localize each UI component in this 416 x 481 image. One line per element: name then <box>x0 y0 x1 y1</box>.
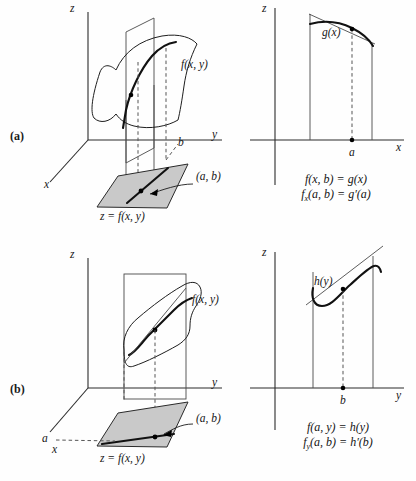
formula-b1-lhs: f(a, y) <box>307 420 336 434</box>
partial-derivative-figure: (a) <box>0 0 416 481</box>
panel-b-formula-line1: f(a, y) = h(y) <box>276 420 400 435</box>
formula-b2-rhs: h′(b) <box>350 435 373 449</box>
formula-b1-rhs: h(y) <box>350 420 369 434</box>
panel-b-2d-graphic <box>0 0 416 481</box>
formula-b2-args: (a, b) <box>310 435 336 449</box>
panel-b-formulas: f(a, y) = h(y) fy(a, b) = h′(b) <box>276 420 400 454</box>
panel-b2-tangent-point <box>341 287 346 292</box>
formula-b2-eq: = <box>336 435 350 449</box>
panel-b2-axis-point-b <box>341 386 346 391</box>
formula-b1-eq: = <box>336 420 350 434</box>
panel-b2-tick-label-b: b <box>340 394 346 406</box>
panel-b2-z-label: z <box>262 246 266 258</box>
panel-b-formula-line2: fy(a, b) = h′(b) <box>276 435 400 454</box>
panel-b2-curve-label: h(y) <box>314 275 333 287</box>
panel-b2-y-label: y <box>396 389 401 401</box>
